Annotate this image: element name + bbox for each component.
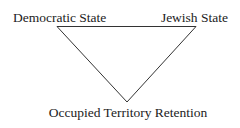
triangle-shape	[57, 27, 196, 103]
trilemma-diagram: Democratic State Jewish State Occupied T…	[0, 0, 240, 128]
label-occupied-territory-retention: Occupied Territory Retention	[49, 105, 208, 120]
label-jewish-state: Jewish State	[161, 10, 228, 25]
label-democratic-state: Democratic State	[13, 10, 106, 25]
